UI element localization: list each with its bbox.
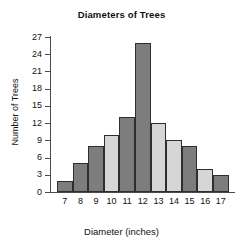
x-axis-title: Diameter (inches) [0,226,243,237]
bar [213,175,229,192]
x-axis-line [50,192,235,193]
bar [104,135,120,192]
y-tick-mark [45,37,50,38]
y-tick-label: 6 [22,153,42,162]
bar-series [51,37,234,192]
y-tick-label: 3 [22,170,42,179]
y-tick-label: 18 [22,84,42,93]
y-tick-mark [45,140,50,141]
y-tick-mark [45,158,50,159]
y-tick-mark [45,106,50,107]
bar [135,43,151,192]
y-axis-title: Number of Trees [8,32,22,192]
y-axis-title-text: Number of Trees [10,78,20,145]
y-tick-label: 21 [22,67,42,76]
y-tick-mark [45,123,50,124]
bar [151,123,167,192]
x-tick-label: 17 [211,196,231,206]
plot-area [51,37,234,192]
y-tick-label: 15 [22,101,42,110]
bar [73,163,89,192]
histogram-chart: Diameters of Trees Number of Trees 03691… [0,0,243,248]
y-tick-mark [45,175,50,176]
bar [88,146,104,192]
y-tick-mark [45,54,50,55]
y-tick-label: 0 [22,188,42,197]
y-tick-label: 27 [22,33,42,42]
y-tick-mark [45,192,50,193]
y-tick-label: 24 [22,50,42,59]
y-tick-label: 12 [22,119,42,128]
y-tick-label: 9 [22,136,42,145]
bar [57,181,73,192]
bar [166,140,182,192]
bar [197,169,213,192]
bar [182,146,198,192]
y-tick-mark [45,89,50,90]
chart-title: Diameters of Trees [0,9,243,20]
y-tick-mark [45,71,50,72]
bar [119,117,135,192]
